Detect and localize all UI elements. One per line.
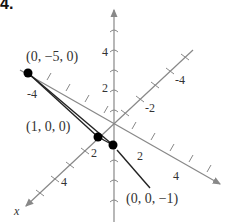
point-label-1-0-0: (1, 0, 0) xyxy=(26,120,70,134)
x-tick-label-2: 2 xyxy=(91,147,97,159)
axes-svg xyxy=(0,0,225,222)
z-tick-label-4: 4 xyxy=(102,46,108,58)
x-tick-label-neg4: -4 xyxy=(175,74,185,86)
problem-number: 4. xyxy=(0,0,13,12)
z-axis xyxy=(110,10,118,222)
point-label-0-neg5-0: (0, −5, 0) xyxy=(26,50,78,64)
x-axis-label: x xyxy=(14,205,19,217)
point-0-neg5-0 xyxy=(24,69,33,78)
x-tick-label-4: 4 xyxy=(61,176,67,188)
point-0-0-neg1 xyxy=(109,141,118,150)
y-tick-label-4: 4 xyxy=(173,170,179,182)
3d-coordinate-diagram: 4. (0, −5, 0) (1, 0, 0) (0, 0, −1) 4 2 -… xyxy=(0,0,225,222)
point-1-0-0 xyxy=(94,133,103,142)
x-tick-label-neg2: -2 xyxy=(145,102,155,114)
y-tick-label-neg4: -4 xyxy=(27,88,37,100)
z-tick-label-2: 2 xyxy=(102,82,108,94)
y-tick-label-2: 2 xyxy=(137,150,143,162)
point-label-0-0-neg1: (0, 0, −1) xyxy=(126,192,178,206)
